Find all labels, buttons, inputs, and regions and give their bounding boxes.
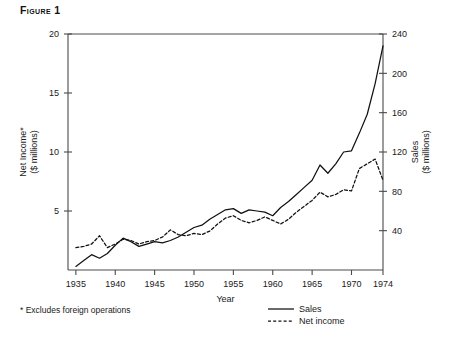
y-tick-label-right: 80 [392, 187, 402, 197]
x-tick-label: 1940 [105, 279, 125, 289]
x-tick-label: 1974 [373, 279, 393, 289]
legend-label-net-income: Net income [299, 316, 345, 326]
y-tick-label-right: 240 [392, 29, 407, 39]
y-axis-title-right-units: ($ millions) [421, 130, 431, 174]
y-tick-label-left: 15 [49, 88, 59, 98]
x-tick-label: 1935 [66, 279, 86, 289]
series-line-sales [76, 46, 383, 267]
series-line-net-income [76, 159, 383, 248]
x-tick-label: 1970 [341, 279, 361, 289]
y-tick-label-right: 120 [392, 147, 407, 157]
y-tick-label-right: 200 [392, 69, 407, 79]
y-axis-title-right: Sales [410, 140, 420, 163]
x-tick-label: 1960 [263, 279, 283, 289]
figure-footnote: * Excludes foreign operations [20, 305, 131, 315]
x-axis-title: Year [216, 294, 234, 304]
y-tick-label-left: 5 [54, 206, 59, 216]
x-tick-label: 1945 [145, 279, 165, 289]
y-tick-label-right: 40 [392, 226, 402, 236]
x-tick-label: 1965 [302, 279, 322, 289]
x-tick-label: 1955 [223, 279, 243, 289]
x-tick-label: 1950 [184, 279, 204, 289]
y-axis-title-left: Net Income* [18, 127, 28, 177]
y-tick-label-left: 20 [49, 29, 59, 39]
y-axis-title-left-units: ($ millions) [29, 130, 39, 174]
legend-label-sales: Sales [299, 304, 322, 314]
y-tick-label-left: 10 [49, 147, 59, 157]
chart-canvas: 5101520408012016020024019351940194519501… [0, 0, 449, 337]
y-tick-label-right: 160 [392, 108, 407, 118]
